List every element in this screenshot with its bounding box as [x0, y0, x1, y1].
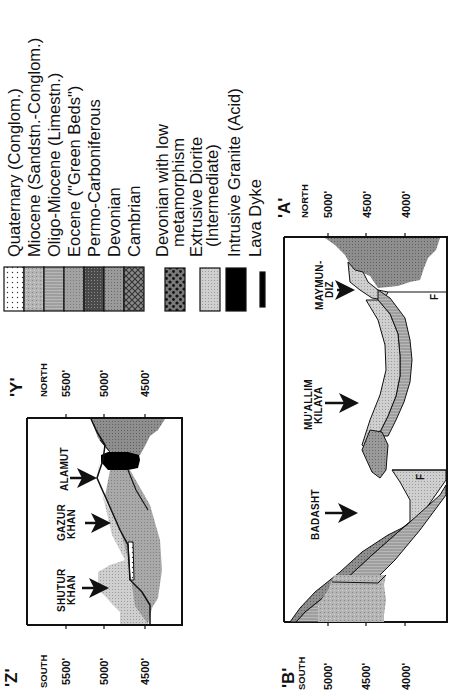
location-alamut: ALAMUT	[59, 447, 70, 491]
swatch-quaternary	[4, 267, 24, 311]
swatch-intrusive-granite	[226, 268, 246, 311]
swatch-miocene	[24, 267, 44, 311]
legend-label-extrusive-diorite-2: (Intermediate)	[203, 144, 221, 247]
location-muallim-kilaya-2: KILAYA	[313, 387, 324, 424]
swatch-permo-carboniferous	[84, 267, 104, 311]
section-zy-right-elev-5500: 5500'	[60, 370, 72, 397]
section-ba-left-elev-5000: 5000'	[322, 663, 334, 690]
fault-label-north: F	[429, 294, 440, 300]
section-ba-right-direction: NORTH	[299, 184, 310, 218]
legend-label-devonian-metamorphic-2: metamorphism	[169, 138, 187, 247]
section-zy-right-label: 'Y'	[7, 378, 26, 397]
swatch-oligo-miocene	[44, 267, 64, 311]
section-ba-left-elev-4500: 4500'	[360, 663, 372, 690]
legend-label-permo-carboniferous: Permo-Carboniferous	[85, 99, 103, 257]
section-ba-arrows	[325, 290, 354, 513]
legend-label-miocene: Miocene (Sandstn.-Conglom.)	[25, 38, 43, 257]
location-gazur-khan-2: KHAN	[66, 509, 77, 539]
legend: Quaternary (Conglom.) Miocene (Sandstn.-…	[4, 38, 265, 311]
location-shutur-khan-2: KHAN	[66, 575, 77, 605]
section-zy-left-label: 'Z'	[2, 669, 21, 687]
location-badasht: BADASHT	[310, 489, 321, 540]
section-ba-left-direction: SOUTH	[296, 657, 307, 690]
section-zy-right-elev-4500: 4500'	[139, 370, 151, 397]
legend-label-lava-dyke: Lava Dyke	[246, 179, 264, 257]
section-ba-right-elev-4500: 4500'	[361, 191, 373, 218]
section-ba-right-elev-4000: 4000'	[400, 191, 412, 218]
legend-label-eocene: Eocene ("Green Beds")	[65, 86, 83, 257]
swatch-cambrian	[124, 267, 144, 311]
swatch-extrusive-diorite	[200, 268, 220, 311]
swatch-devonian	[104, 267, 124, 311]
section-zy-left-elev-4500: 4500'	[139, 658, 151, 685]
legend-label-intrusive-granite: Intrusive Granite (Acid)	[225, 88, 243, 257]
legend-swatches-sedimentary	[4, 267, 144, 311]
fault-label-south: F	[415, 474, 426, 480]
legend-swatches-igneous	[165, 268, 265, 311]
section-zy-left-direction: SOUTH	[38, 655, 49, 688]
swatch-devonian-metamorphic	[165, 268, 185, 311]
location-maymun-diz-2: DIZ	[324, 281, 335, 298]
section-zy-left-elev-5500: 5500'	[60, 658, 72, 685]
section-zy-right-elev-5000: 5000'	[98, 370, 110, 397]
legend-label-quaternary: Quaternary (Conglom.)	[5, 88, 23, 257]
cross-section-b-a: F F BADASHT MU'ALLIM KILAYA MAYMUN- DIZ …	[275, 184, 447, 690]
cross-section-z-y: SHUTUR KHAN GAZUR KHAN ALAMUT 'Z' SOUTH …	[2, 363, 182, 688]
swatch-eocene	[64, 267, 84, 311]
swatch-lava-dyke	[260, 272, 265, 307]
legend-label-devonian: Devonian	[105, 187, 123, 257]
section-ba-devonian-north	[325, 238, 440, 288]
legend-label-oligo-miocene: Oligo-Miocene (Limestn.)	[45, 73, 63, 257]
section-zy-granite	[101, 452, 140, 470]
section-ba-right-label: 'A'	[275, 198, 294, 218]
section-zy-left-elev-5000: 5000'	[98, 658, 110, 685]
section-ba-right-elev-5000: 5000'	[322, 191, 334, 218]
geology-figure: Quaternary (Conglom.) Miocene (Sandstn.-…	[0, 0, 454, 693]
legend-label-cambrian: Cambrian	[125, 185, 143, 257]
section-zy-right-direction: NORTH	[38, 363, 49, 397]
section-ba-left-elev-4000: 4000'	[400, 663, 412, 690]
